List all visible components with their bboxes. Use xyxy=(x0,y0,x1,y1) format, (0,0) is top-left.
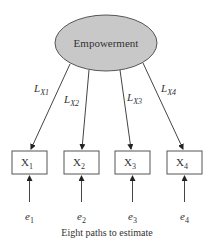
error-label-e2: e2 xyxy=(77,210,86,225)
indicator-boxes: X1 X2 X3 X4 xyxy=(12,151,202,174)
path-L-X3 xyxy=(120,70,131,149)
latent-label: Empowerment xyxy=(74,37,139,49)
error-label-e3: e3 xyxy=(128,210,137,225)
indicator-x2: X2 xyxy=(64,151,99,174)
loading-paths xyxy=(31,63,183,149)
loading-labels: LX1 LX2 LX3 LX4 xyxy=(33,82,176,108)
path-L-X1 xyxy=(31,64,70,149)
latent-variable-empowerment: Empowerment xyxy=(55,15,157,71)
error-label-e4: e4 xyxy=(180,210,189,225)
path-L-X4 xyxy=(143,63,183,149)
error-paths xyxy=(30,176,185,202)
loading-label-x1: LX1 xyxy=(33,82,49,97)
error-label-e1: e1 xyxy=(25,210,34,225)
indicator-x3: X3 xyxy=(115,151,150,174)
error-labels: e1 e2 e3 e4 xyxy=(25,210,189,225)
indicator-x1: X1 xyxy=(12,151,47,174)
loading-label-x2: LX2 xyxy=(63,93,79,108)
path-L-X2 xyxy=(82,70,89,149)
loading-label-x4: LX4 xyxy=(160,82,176,97)
indicator-x4: X4 xyxy=(167,151,202,174)
loading-label-x3: LX3 xyxy=(126,91,142,106)
path-diagram: Empowerment LX1 LX2 LX3 LX4 X1 X2 X3 X4 xyxy=(0,0,218,248)
caption: Eight paths to estimate xyxy=(61,227,153,238)
